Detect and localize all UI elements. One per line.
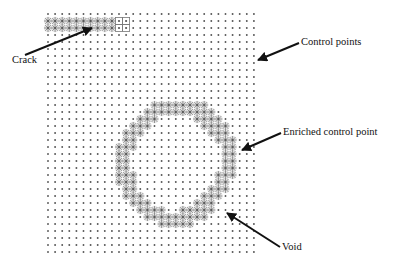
- control-point: [118, 97, 120, 99]
- control-point: [210, 48, 212, 50]
- control-point: [111, 62, 113, 64]
- control-point: [132, 34, 134, 36]
- control-point: [246, 48, 248, 50]
- control-point: [83, 209, 85, 211]
- control-point: [217, 209, 219, 211]
- control-point: [111, 41, 113, 43]
- control-point: [83, 69, 85, 71]
- control-point: [225, 27, 227, 29]
- control-point: [217, 202, 219, 204]
- control-point: [118, 41, 120, 43]
- control-point: [90, 69, 92, 71]
- control-point: [75, 90, 77, 92]
- control-point: [111, 174, 113, 176]
- control-point: [253, 34, 255, 36]
- control-point: [54, 202, 56, 204]
- control-point: [61, 230, 63, 232]
- control-point: [139, 216, 141, 218]
- control-point: [118, 125, 120, 127]
- control-point: [161, 230, 163, 232]
- control-point: [246, 167, 248, 169]
- control-point: [225, 62, 227, 64]
- control-point: [104, 146, 106, 148]
- control-point: [196, 195, 198, 197]
- control-point: [111, 97, 113, 99]
- control-point: [139, 146, 141, 148]
- control-point: [203, 181, 205, 183]
- control-point: [175, 139, 177, 141]
- control-point: [54, 153, 56, 155]
- control-point: [68, 132, 70, 134]
- control-point: [125, 69, 127, 71]
- control-point: [68, 34, 70, 36]
- control-point: [75, 174, 77, 176]
- control-point: [239, 125, 241, 127]
- control-point: [189, 167, 191, 169]
- control-point: [104, 160, 106, 162]
- control-point: [111, 90, 113, 92]
- control-point: [246, 83, 248, 85]
- control-point: [210, 174, 212, 176]
- control-point: [97, 146, 99, 148]
- control-point: [83, 62, 85, 64]
- control-point: [175, 181, 177, 183]
- control-point: [75, 237, 77, 239]
- control-point: [118, 118, 120, 120]
- control-point: [139, 27, 141, 29]
- control-point: [217, 13, 219, 15]
- control-point: [75, 167, 77, 169]
- control-point: [104, 111, 106, 113]
- control-point: [146, 223, 148, 225]
- control-point: [239, 216, 241, 218]
- control-point: [90, 167, 92, 169]
- control-point: [161, 195, 163, 197]
- control-point: [54, 104, 56, 106]
- control-point: [182, 251, 184, 253]
- control-point: [97, 104, 99, 106]
- control-point: [90, 209, 92, 211]
- control-point: [139, 160, 141, 162]
- control-point: [225, 76, 227, 78]
- control-point: [210, 55, 212, 57]
- control-point: [225, 90, 227, 92]
- control-point: [104, 104, 106, 106]
- control-point: [203, 20, 205, 22]
- control-point: [111, 132, 113, 134]
- control-point: [90, 34, 92, 36]
- control-point: [253, 223, 255, 225]
- control-point: [68, 118, 70, 120]
- control-point: [47, 90, 49, 92]
- control-point: [175, 41, 177, 43]
- control-point: [97, 188, 99, 190]
- control-point: [97, 41, 99, 43]
- control-point: [104, 34, 106, 36]
- control-point: [54, 76, 56, 78]
- control-point: [54, 48, 56, 50]
- control-point: [232, 251, 234, 253]
- control-point: [253, 195, 255, 197]
- control-point: [239, 132, 241, 134]
- control-point: [203, 55, 205, 57]
- control-point: [90, 76, 92, 78]
- control-point: [54, 83, 56, 85]
- control-point: [182, 125, 184, 127]
- control-point: [175, 13, 177, 15]
- control-point: [168, 153, 170, 155]
- control-point: [232, 188, 234, 190]
- control-point: [68, 237, 70, 239]
- control-point: [203, 223, 205, 225]
- control-point: [83, 125, 85, 127]
- control-point: [246, 132, 248, 134]
- control-point: [217, 69, 219, 71]
- control-point: [168, 251, 170, 253]
- control-point: [246, 41, 248, 43]
- control-point: [61, 97, 63, 99]
- control-point: [203, 48, 205, 50]
- control-point: [97, 195, 99, 197]
- control-point: [83, 118, 85, 120]
- control-point: [196, 181, 198, 183]
- control-point: [182, 181, 184, 183]
- control-point: [61, 146, 63, 148]
- control-point: [125, 230, 127, 232]
- control-point: [118, 223, 120, 225]
